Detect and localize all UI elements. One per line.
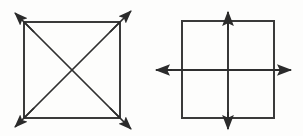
figure-canvas: Two Square Diagrams — [0, 0, 303, 136]
diagram-svg — [0, 0, 303, 136]
